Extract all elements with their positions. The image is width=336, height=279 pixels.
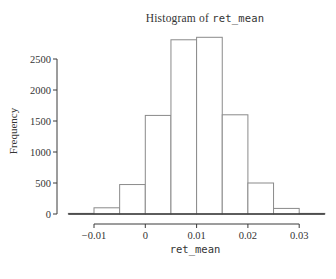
chart-title: Histogram of ret_mean bbox=[75, 12, 335, 24]
figure-canvas: Histogram of ret_mean Frequency 05001000… bbox=[0, 0, 336, 279]
histogram-plot: 05001000150020002500−0.0100.010.020.03 bbox=[0, 0, 336, 279]
histogram-bar bbox=[120, 185, 146, 214]
x-tick-label: 0.03 bbox=[290, 230, 308, 241]
histogram-bar bbox=[274, 208, 300, 214]
histogram-bar bbox=[222, 115, 248, 214]
x-axis-label: ret_mean bbox=[140, 243, 250, 255]
histogram-bar bbox=[197, 37, 223, 214]
x-tick-label: 0 bbox=[143, 230, 148, 241]
chart-title-variable: ret_mean bbox=[212, 12, 264, 24]
y-tick-label: 1500 bbox=[30, 116, 51, 127]
y-axis-label: Frequency bbox=[7, 95, 21, 167]
histogram-bar bbox=[94, 208, 120, 214]
y-tick-label: 2500 bbox=[30, 54, 51, 65]
chart-title-text: Histogram of bbox=[146, 12, 212, 24]
histogram-bar bbox=[145, 115, 171, 214]
y-tick-label: 1000 bbox=[30, 147, 51, 158]
y-tick-label: 500 bbox=[35, 178, 51, 189]
x-tick-label: 0.01 bbox=[187, 230, 205, 241]
x-tick-label: 0.02 bbox=[239, 230, 257, 241]
x-tick-label: −0.01 bbox=[82, 230, 106, 241]
histogram-bar bbox=[171, 40, 197, 214]
y-tick-label: 0 bbox=[46, 209, 51, 220]
y-tick-label: 2000 bbox=[30, 85, 51, 96]
histogram-bar bbox=[248, 183, 274, 214]
